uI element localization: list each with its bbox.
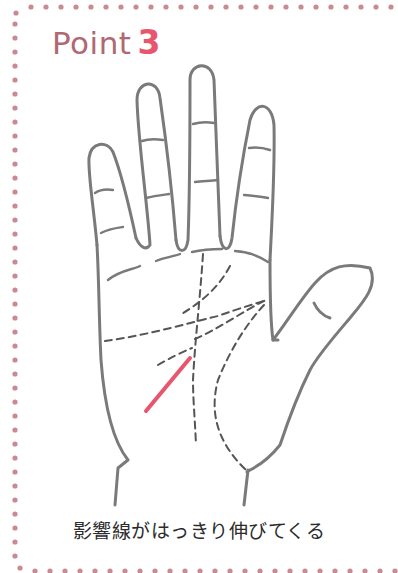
caption-text: 影響線がはっきり伸びてくる [0, 516, 398, 543]
hand-outline [89, 66, 373, 505]
point-card: Point3 [0, 0, 398, 573]
influence-line-highlight [146, 358, 190, 411]
palm-illustration [0, 0, 398, 573]
